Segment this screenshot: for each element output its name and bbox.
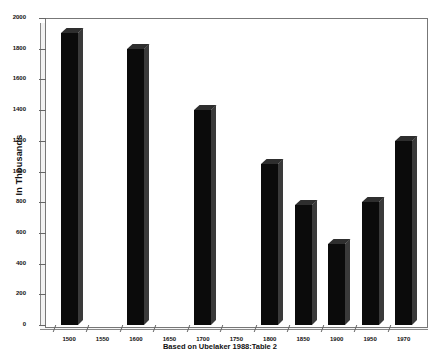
bar-front-face (395, 141, 412, 325)
y-axis-tick (39, 172, 46, 173)
bar-side-face (345, 239, 350, 325)
bar-side-face (412, 136, 417, 325)
bar-side-face (379, 197, 384, 325)
bar-side-face (278, 159, 283, 325)
y-axis-tick (39, 233, 46, 234)
y-axis-tick-label: 1600 (0, 75, 26, 81)
y-axis-tick-label: 600 (0, 229, 26, 235)
bar (261, 164, 278, 325)
x-axis-caption: Based on Ubelaker 1988:Table 2 (0, 342, 440, 351)
y-axis-tick-label: 1800 (0, 45, 26, 51)
bar-front-face (328, 244, 345, 325)
y-axis-tick-label: 400 (0, 260, 26, 266)
y-axis-tick (39, 202, 46, 203)
y-axis-tick-label: 1200 (0, 137, 26, 143)
bar (295, 205, 312, 325)
bar-front-face (362, 202, 379, 325)
bar-front-face (194, 110, 211, 325)
y-axis-tick (39, 18, 46, 19)
y-axis-tick (39, 110, 46, 111)
y-axis-tick (39, 325, 46, 326)
y-axis-tick (39, 141, 46, 142)
bar-front-face (127, 49, 144, 325)
bar (328, 244, 345, 325)
bar (61, 33, 78, 325)
y-axis-tick-label: 200 (0, 290, 26, 296)
y-axis-tick (39, 79, 46, 80)
y-axis-tick-label: 800 (0, 198, 26, 204)
bar-side-face (78, 28, 83, 325)
bar-front-face (295, 205, 312, 325)
y-axis-tick-label: 1000 (0, 168, 26, 174)
y-axis-tick (39, 49, 46, 50)
bar-side-face (211, 105, 216, 325)
y-axis-tick (39, 264, 46, 265)
bar-side-face (144, 44, 149, 325)
bar-chart: In Thousands 020040060080010001200140016… (0, 0, 440, 363)
y-axis-tick-label: 2000 (0, 14, 26, 20)
bar (194, 110, 211, 325)
y-axis-tick (39, 294, 46, 295)
plot-area: 0200400600800100012001400160018002000 15… (45, 18, 428, 325)
bar-front-face (261, 164, 278, 325)
y-axis-tick-label: 0 (0, 321, 26, 327)
y-axis-tick-label: 1400 (0, 106, 26, 112)
bar (362, 202, 379, 325)
bar-front-face (61, 33, 78, 325)
bar-side-face (312, 200, 317, 325)
bar (395, 141, 412, 325)
bar (127, 49, 144, 325)
